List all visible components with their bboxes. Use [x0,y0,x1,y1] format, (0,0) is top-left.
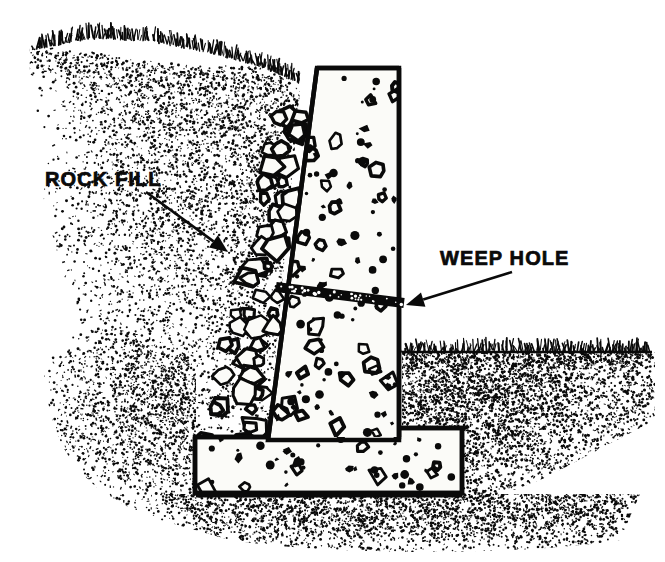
grass-tufts-upper-slope [37,23,300,83]
right-ground-line [400,338,652,354]
figure-canvas: ROCK FILL WEEP HOLE [0,0,665,562]
retaining-wall-figure: ROCK FILL WEEP HOLE [0,0,665,562]
label-rock-fill: ROCK FILL [45,168,162,190]
leader-weep-hole [406,272,512,307]
weep-hole-arrowhead [406,293,425,307]
weep-hole-leader-line [423,272,512,300]
rock-fill-leader-line [146,192,214,241]
soil-base-stratum [150,491,651,556]
label-weep-hole: WEEP HOLE [440,247,570,269]
